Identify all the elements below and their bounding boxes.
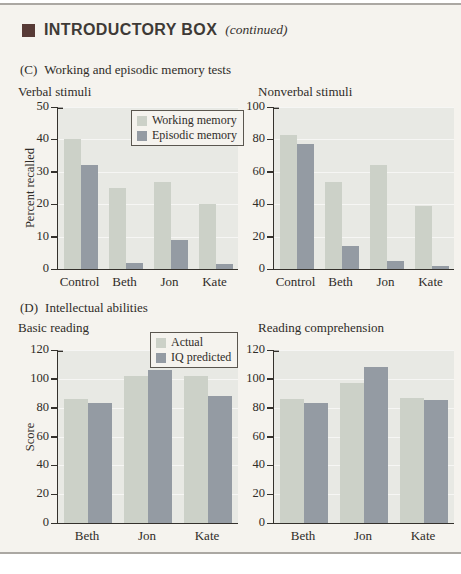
legend-item-iq-predicted: IQ predicted [156, 351, 231, 364]
y-tick [267, 523, 273, 525]
legend-swatch-iq-predicted [156, 353, 166, 363]
box-header: INTRODUCTORY BOX (continued) [22, 22, 287, 38]
plot-area [57, 350, 238, 524]
bar-iq-predicted-jon [148, 370, 172, 523]
y-tick [267, 465, 273, 467]
x-label-kate: Kate [180, 274, 250, 290]
legend-label-iq-predicted: IQ predicted [171, 351, 231, 364]
chart-subtitle-verbal-stimuli: Verbal stimuli [18, 85, 91, 98]
y-tick [51, 269, 57, 271]
legend: Working memoryEpisodic memory [131, 110, 244, 146]
bar-actual-kate [184, 376, 208, 523]
y-axis-label: Score [24, 422, 37, 450]
bar-working-memory-kate [415, 206, 432, 269]
bar-episodic-memory-control [297, 144, 314, 269]
bar-episodic-memory-kate [432, 266, 449, 269]
legend: ActualIQ predicted [150, 332, 238, 368]
y-tick [51, 236, 57, 238]
chart-basic-reading: Basic reading 020406080100120BethJonKate… [18, 319, 240, 545]
y-tick [51, 107, 57, 109]
bar-actual-beth [280, 399, 304, 523]
bar-iq-predicted-jon [364, 367, 388, 523]
bar-iq-predicted-kate [208, 396, 232, 523]
y-tick-label-40: 40 [17, 131, 49, 146]
y-tick [267, 436, 273, 438]
gridline [274, 350, 454, 351]
y-tick-label-10: 10 [17, 229, 49, 244]
y-tick-label-100: 100 [233, 371, 265, 386]
y-tick [267, 139, 273, 141]
bar-episodic-memory-beth [126, 263, 143, 269]
y-tick-label-100: 100 [17, 371, 49, 386]
gridline [58, 107, 238, 108]
legend-item-working-memory: Working memory [137, 114, 237, 127]
bar-episodic-memory-jon [387, 261, 404, 269]
bar-actual-jon [340, 383, 364, 523]
x-label-kate: Kate [396, 274, 461, 290]
section-d-title: Intellectual abilities [45, 300, 148, 315]
section-d-prefix: (D) [20, 300, 38, 315]
plot-area [273, 107, 454, 270]
y-tick [51, 171, 57, 173]
bar-episodic-memory-jon [171, 240, 188, 269]
legend-item-episodic-memory: Episodic memory [137, 129, 237, 142]
y-tick-label-80: 80 [17, 400, 49, 415]
y-tick [267, 107, 273, 109]
y-tick [267, 269, 273, 271]
y-tick [51, 436, 57, 438]
bar-iq-predicted-beth [88, 403, 112, 523]
chart-nonverbal-stimuli: Nonverbal stimuli 020406080100ControlBet… [240, 83, 461, 295]
y-tick [51, 523, 57, 525]
bar-working-memory-jon [154, 182, 171, 269]
gridline [274, 139, 454, 140]
chart-reading-comprehension: Reading comprehension 020406080100120Bet… [240, 319, 461, 545]
y-tick-label-20: 20 [17, 486, 49, 501]
plot-area [273, 350, 454, 524]
y-tick-label-50: 50 [17, 99, 49, 114]
bar-working-memory-kate [199, 204, 216, 269]
bar-iq-predicted-kate [424, 400, 448, 523]
bar-episodic-memory-control [81, 165, 98, 269]
y-tick [267, 378, 273, 380]
y-tick [51, 139, 57, 141]
y-tick [267, 350, 273, 352]
y-tick [267, 494, 273, 496]
box-title: INTRODUCTORY BOX [44, 22, 217, 38]
y-tick-label-120: 120 [17, 342, 49, 357]
y-tick-label-40: 40 [17, 457, 49, 472]
x-label-kate: Kate [388, 528, 458, 544]
y-tick-label-40: 40 [233, 196, 265, 211]
bar-episodic-memory-kate [216, 264, 233, 269]
y-tick [267, 171, 273, 173]
y-tick-label-60: 60 [233, 164, 265, 179]
legend-label-working-memory: Working memory [152, 114, 237, 127]
legend-swatch-working-memory [137, 116, 147, 126]
bar-actual-kate [400, 398, 424, 523]
legend-swatch-episodic-memory [137, 131, 147, 141]
bar-working-memory-beth [109, 188, 126, 269]
y-tick-label-20: 20 [233, 486, 265, 501]
y-tick [51, 407, 57, 409]
y-tick [51, 378, 57, 380]
bar-working-memory-jon [370, 165, 387, 269]
chart-subtitle-nonverbal-stimuli: Nonverbal stimuli [258, 85, 352, 98]
bar-iq-predicted-beth [304, 403, 328, 523]
section-c-title: Working and episodic memory tests [44, 62, 231, 77]
y-tick-label-80: 80 [233, 400, 265, 415]
y-tick-label-0: 0 [233, 515, 265, 530]
y-tick-label-80: 80 [233, 131, 265, 146]
y-tick [267, 407, 273, 409]
x-label-kate: Kate [172, 528, 242, 544]
square-bullet-icon [22, 24, 35, 37]
y-tick [51, 350, 57, 352]
legend-item-actual: Actual [156, 336, 231, 349]
y-tick-label-0: 0 [17, 515, 49, 530]
legend-swatch-actual [156, 338, 166, 348]
y-tick [51, 494, 57, 496]
y-tick-label-40: 40 [233, 457, 265, 472]
box-continued-label: (continued) [225, 23, 287, 37]
chart-subtitle-basic-reading: Basic reading [18, 321, 89, 334]
section-d-heading: (D)Intellectual abilities [20, 301, 148, 314]
y-axis-label: Percent recalled [24, 148, 37, 228]
bar-working-memory-control [64, 139, 81, 269]
